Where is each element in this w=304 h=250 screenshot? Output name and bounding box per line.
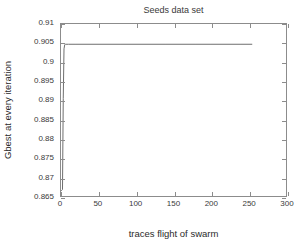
y-axis-tick-mark: [282, 24, 286, 25]
y-axis-tick-mark: [61, 179, 65, 180]
chart-title: Seeds data set: [60, 5, 287, 16]
x-axis-label: traces flight of swarm: [60, 228, 287, 240]
y-axis-tick-label: 0.87: [0, 174, 54, 182]
y-axis-tick-mark: [61, 140, 65, 141]
line-series-gbest: [61, 44, 252, 191]
y-axis-tick-label: 0.895: [0, 77, 54, 85]
y-axis-tick-mark: [282, 159, 286, 160]
x-axis-tick-labels: 050100150200250300: [60, 200, 287, 212]
chart-figure: Seeds data set Gbest at every iteration …: [0, 0, 304, 250]
y-axis-tick-label: 0.885: [0, 116, 54, 124]
y-axis-tick-label: 0.91: [0, 19, 54, 27]
x-axis-tick-mark: [175, 192, 176, 196]
x-axis-tick-mark: [61, 24, 62, 28]
x-axis-tick-label: 200: [191, 200, 231, 208]
y-axis-tick-label: 0.905: [0, 38, 54, 46]
x-axis-tick-mark: [250, 24, 251, 28]
y-axis-tick-label: 0.9: [0, 58, 54, 66]
x-axis-tick-label: 100: [116, 200, 156, 208]
x-axis-tick-mark: [175, 24, 176, 28]
x-axis-tick-mark: [250, 192, 251, 196]
x-axis-tick-mark: [137, 24, 138, 28]
y-axis-tick-label: 0.875: [0, 154, 54, 162]
y-axis-tick-mark: [282, 63, 286, 64]
y-axis-tick-mark: [282, 179, 286, 180]
data-series-layer: [61, 24, 286, 196]
y-axis-tick-mark: [61, 159, 65, 160]
x-axis-tick-mark: [99, 24, 100, 28]
x-axis-tick-label: 250: [229, 200, 269, 208]
x-axis-tick-mark: [212, 192, 213, 196]
y-axis-tick-mark: [282, 121, 286, 122]
y-axis-tick-mark: [61, 121, 65, 122]
x-axis-tick-label: 300: [267, 200, 304, 208]
x-axis-tick-label: 0: [40, 200, 80, 208]
x-axis-tick-mark: [288, 192, 289, 196]
y-axis-tick-mark: [282, 140, 286, 141]
y-axis-tick-mark: [61, 43, 65, 44]
y-axis-tick-mark: [61, 63, 65, 64]
y-axis-tick-mark: [282, 43, 286, 44]
x-axis-tick-mark: [288, 24, 289, 28]
y-axis-tick-label: 0.89: [0, 96, 54, 104]
plot-area: [60, 23, 287, 197]
x-axis-tick-label: 50: [78, 200, 118, 208]
x-axis-tick-mark: [137, 192, 138, 196]
y-axis-tick-mark: [61, 82, 65, 83]
x-axis-tick-mark: [99, 192, 100, 196]
x-axis-tick-mark: [212, 24, 213, 28]
y-axis-tick-mark: [282, 82, 286, 83]
x-axis-tick-mark: [61, 192, 62, 196]
y-axis-tick-mark: [282, 101, 286, 102]
y-axis-tick-label: 0.88: [0, 135, 54, 143]
y-axis-tick-mark: [61, 101, 65, 102]
x-axis-tick-label: 150: [154, 200, 194, 208]
